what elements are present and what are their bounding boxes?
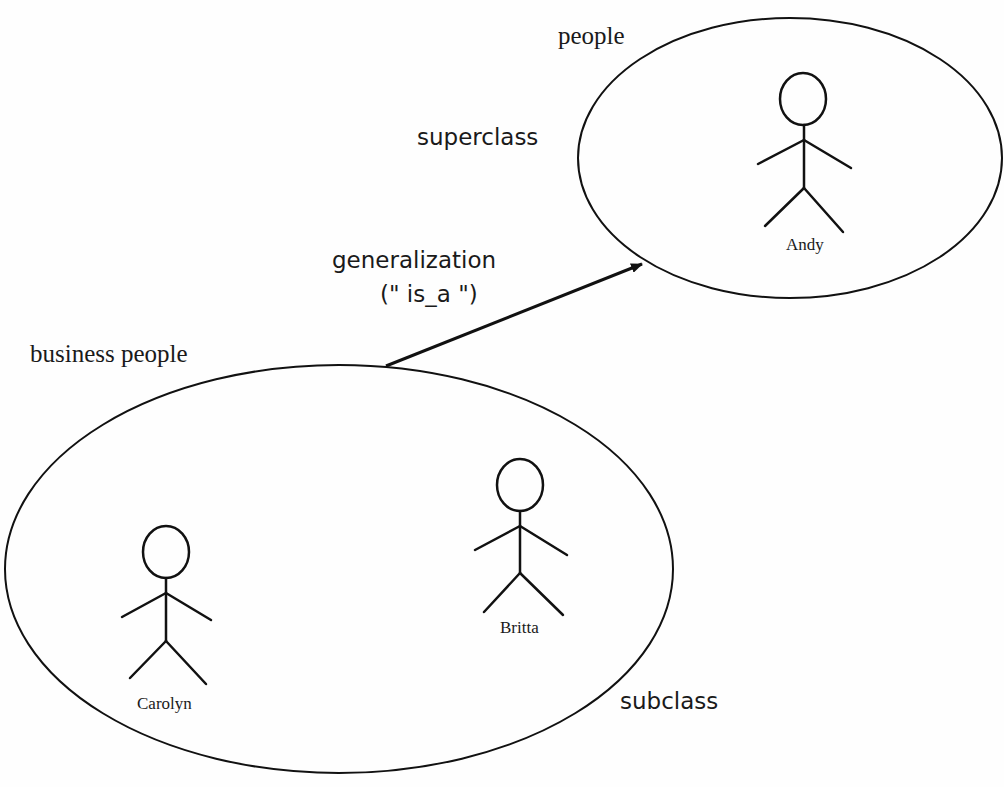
superclass-ellipse <box>578 18 1002 298</box>
relationship-label: generalization <box>332 247 496 273</box>
subclass-ellipse <box>5 365 673 773</box>
stick-figure-andy <box>758 73 851 232</box>
stick-figure-carolyn <box>122 526 211 684</box>
diagram-svg: people superclass Andy generalization ("… <box>0 0 1004 787</box>
subclass-set-name: business people <box>30 340 188 367</box>
member-label-andy: Andy <box>786 235 824 254</box>
member-label-britta: Britta <box>500 618 539 637</box>
generalization-diagram: people superclass Andy generalization ("… <box>0 0 1004 787</box>
member-label-carolyn: Carolyn <box>137 694 192 713</box>
generalization-arrow <box>386 264 642 366</box>
stick-figure-britta <box>475 459 567 615</box>
relationship-sublabel: (" is_a ") <box>380 281 478 307</box>
superclass-role-label: superclass <box>417 124 538 150</box>
superclass-set-name: people <box>558 22 625 49</box>
subclass-role-label: subclass <box>620 688 718 714</box>
